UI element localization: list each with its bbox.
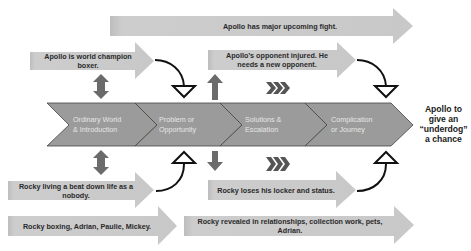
label-rocky-loses-locker: Rocky loses his locker and status. [212, 180, 340, 200]
label-rocky-revealed: Rocky revealed in relationships, collect… [190, 216, 390, 236]
up-down-arrow-icon [93, 150, 109, 175]
up-down-arrow-icon [93, 74, 109, 99]
curved-arrow-up-icon [156, 152, 195, 191]
curved-arrow-down-icon [357, 60, 397, 97]
triple-chevron-icon [266, 82, 290, 94]
curved-arrow-down-icon [155, 60, 195, 97]
diagram-canvas [0, 0, 471, 251]
stage-label-line: or Journey [331, 125, 393, 135]
outcome-line: a chance [416, 134, 471, 144]
stage-label-line: Ordinary World [73, 115, 137, 125]
stage-label-line: & Introduction [73, 125, 137, 135]
up-arrow-icon [207, 74, 223, 100]
stage-label-line: Complication [331, 115, 393, 125]
stage-label-problem: Problem or Opportunity [159, 115, 219, 135]
stage-label-line: Solutions & [245, 115, 305, 125]
outcome-line: “underdog” [416, 124, 471, 134]
stage-label-line: Problem or [159, 115, 219, 125]
label-apollo-champion: Apollo is world champion boxer. [38, 52, 138, 70]
stage-label-line: Opportunity [159, 125, 219, 135]
down-arrow-icon [207, 151, 223, 171]
stage-label-complication: Complication or Journey [331, 115, 393, 135]
stage-label-line: Escalation [245, 125, 305, 135]
label-apollo-upcoming-fight: Apollo has major upcoming fight. [180, 16, 380, 36]
triple-chevron-icon [266, 157, 290, 171]
label-rocky-boxing: Rocky boxing, Adrian, Paulie, Mickey. [12, 216, 162, 236]
outcome-line: give an [416, 114, 471, 124]
label-rocky-beat-down-life: Rocky living a beat down life as a nobod… [12, 181, 140, 200]
outcome-line: Apollo to [416, 104, 471, 114]
stage-label-solutions: Solutions & Escalation [245, 115, 305, 135]
outcome-text: Apollo to give an “underdog” a chance [416, 104, 471, 144]
stage-label-ordinary-world: Ordinary World & Introduction [73, 115, 137, 135]
curved-arrow-up-icon [357, 152, 397, 191]
label-apollo-opponent-injured: Apollo’s opponent injured. He needs a ne… [218, 50, 336, 70]
